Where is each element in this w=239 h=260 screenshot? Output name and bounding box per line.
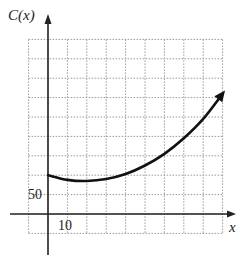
axes xyxy=(10,14,236,255)
y-axis-arrow-icon xyxy=(45,14,52,24)
y-axis-label: C(x) xyxy=(8,8,35,23)
x-axis-label: x xyxy=(229,220,236,235)
x-tick-label: 10 xyxy=(58,219,72,233)
chart-plot xyxy=(0,0,239,260)
cost-curve xyxy=(48,94,223,181)
grid-lines xyxy=(29,39,223,233)
y-tick-label: 50 xyxy=(28,188,42,202)
x-axis-arrow-icon xyxy=(227,211,236,218)
